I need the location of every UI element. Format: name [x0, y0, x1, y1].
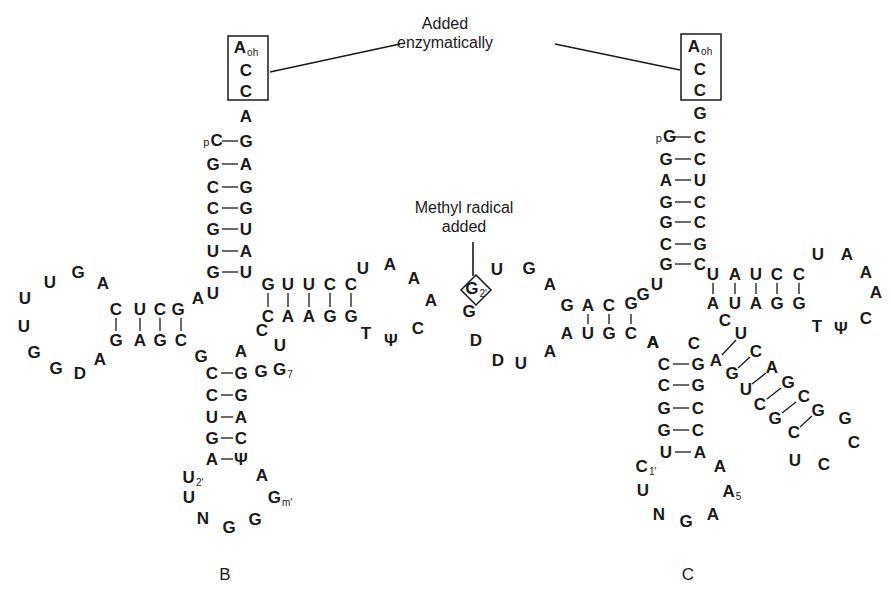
nucleotide: A — [870, 284, 882, 301]
base-letter: G — [693, 104, 706, 123]
modification-subscript: 2' — [196, 477, 203, 488]
nucleotide: G — [194, 348, 207, 365]
base-letter: A — [707, 505, 719, 524]
base-letter: A — [561, 324, 573, 343]
nucleotide: A — [766, 359, 778, 376]
base-letter: U — [812, 245, 824, 264]
base-letter: G — [344, 307, 357, 326]
nucleotide: A — [860, 264, 872, 281]
base-letter: A — [97, 274, 109, 293]
nucleotide: A — [303, 308, 315, 325]
base-letter: C — [754, 395, 766, 414]
base-pair-bond — [767, 388, 781, 399]
base-letter: C — [719, 311, 731, 330]
base-letter: U — [740, 380, 752, 399]
nucleotide: U — [18, 318, 30, 335]
nucleotide: A — [710, 352, 722, 369]
trna-diagram: AohCCApCGGACGCGGUUAGUUAGCUCAGUUUGGDAGAGC… — [0, 0, 891, 595]
base-letter: G — [323, 307, 336, 326]
base-letter: G — [27, 343, 40, 362]
nucleotide: A — [544, 343, 556, 360]
base-letter: C — [175, 331, 187, 350]
base-letter: C — [750, 342, 762, 361]
nucleotide: G7 — [273, 361, 293, 380]
annotation-connector — [555, 44, 680, 70]
nucleotide: G — [657, 422, 670, 439]
base-letter: C — [240, 82, 252, 101]
base-letter: C — [818, 455, 830, 474]
base-letter: G — [153, 331, 166, 350]
modification-subscript: oh — [247, 47, 258, 58]
base-letter: G — [838, 409, 851, 428]
nucleotide: G — [770, 295, 783, 312]
nucleotide: C — [694, 82, 706, 99]
nucleotide: Aoh — [688, 38, 712, 57]
base-letter: N — [653, 505, 665, 524]
base-letter: C — [694, 60, 706, 79]
nucleotide: A — [235, 409, 247, 426]
nucleotide: G — [691, 356, 704, 373]
nucleotide: C — [793, 266, 805, 283]
base-pair-bond — [782, 402, 796, 413]
annotation-enzymatic-line1: Added — [397, 14, 493, 33]
base-letter: G — [770, 294, 783, 313]
nucleotide: G — [206, 221, 219, 238]
nucleotide: C — [154, 301, 166, 318]
base-letter: U — [357, 259, 369, 278]
annotation-methyl: Methyl radical added — [415, 198, 514, 236]
base-letter: A — [766, 358, 778, 377]
base-letter: C — [324, 275, 336, 294]
base-letter: C — [694, 213, 706, 232]
base-letter: C — [206, 386, 218, 405]
base-letter: U — [694, 171, 706, 190]
nucleotide: G — [254, 363, 267, 380]
nucleotide: A — [425, 292, 437, 309]
base-letter: A — [192, 289, 204, 308]
base-letter: G — [659, 213, 672, 232]
annotation-enzymatic-line2: enzymatically — [397, 33, 493, 52]
nucleotide: C — [345, 276, 357, 293]
nucleotide: C — [694, 214, 706, 231]
base-letter: A — [647, 333, 659, 352]
base-letter: G — [206, 220, 219, 239]
nucleotide: C — [694, 129, 706, 146]
nucleotide: C — [324, 276, 336, 293]
nucleotide: A — [707, 295, 719, 312]
base-letter: Ψ — [834, 319, 848, 338]
nucleotide: Aoh — [234, 39, 258, 58]
nucleotide: A — [256, 467, 268, 484]
base-letter: C — [658, 355, 670, 374]
base-letter: C — [207, 199, 219, 218]
nucleotide: U — [207, 285, 219, 302]
nucleotide: C — [240, 62, 252, 79]
base-letter: A — [282, 307, 294, 326]
base-letter: C — [210, 131, 222, 150]
base-letter: A — [240, 107, 252, 126]
nucleotide: A — [714, 458, 726, 475]
nucleotide: U — [357, 260, 369, 277]
nucleotide: G — [234, 387, 247, 404]
base-letter: A — [134, 331, 146, 350]
base-letter: C — [694, 150, 706, 169]
nucleotide: G2' — [465, 280, 487, 299]
nucleotide: U — [515, 355, 527, 372]
base-letter: C — [412, 319, 424, 338]
nucleotide: U — [637, 482, 649, 499]
nucleotide: C — [658, 377, 670, 394]
base-letter: U — [707, 265, 719, 284]
base-letter: G — [239, 199, 252, 218]
base-letter: U — [206, 408, 218, 427]
panel-label-c: C — [682, 565, 694, 585]
nucleotide: A — [240, 108, 252, 125]
nucleotide: Gm' — [268, 489, 292, 508]
nucleotide: U — [812, 246, 824, 263]
base-letter: A — [94, 350, 106, 369]
nucleotide: A — [408, 270, 420, 287]
nucleotide: U — [207, 243, 219, 260]
nucleotide: G — [792, 295, 805, 312]
base-letter: C — [860, 309, 872, 328]
nucleotide: G — [659, 194, 672, 211]
nucleotide: T — [361, 325, 371, 342]
base-letter: G — [234, 386, 247, 405]
base-letter: C — [207, 178, 219, 197]
